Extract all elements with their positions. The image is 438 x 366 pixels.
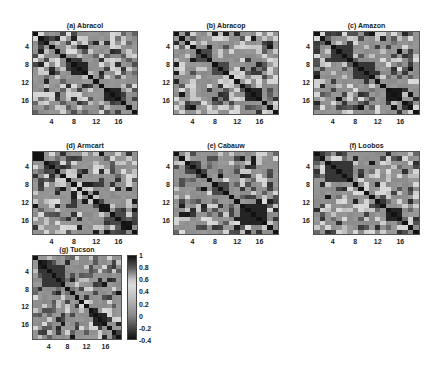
panel-title: (f) Loobos: [349, 142, 383, 149]
matrix-cell: [273, 230, 278, 234]
x-tick-label: 4: [191, 238, 195, 245]
colorbar-tick-label: 0.6: [139, 276, 149, 283]
colorbar-tick-label: 0.8: [139, 264, 149, 271]
y-tick-label: 12: [15, 198, 29, 205]
y-tick-label: 12: [296, 78, 310, 85]
x-tick-label: 16: [256, 118, 264, 125]
x-tick-label: 8: [72, 118, 76, 125]
panel-title: (a) Abracol: [67, 22, 103, 29]
correlation-matrix: [173, 151, 279, 235]
x-tick-label: 4: [47, 343, 51, 350]
matrix-cell: [273, 110, 278, 114]
matrix-cell: [413, 110, 419, 114]
x-tick-label: 16: [396, 118, 404, 125]
matrix-cell: [132, 110, 137, 114]
y-tick-label: 16: [156, 216, 170, 223]
x-tick-label: 12: [233, 238, 241, 245]
x-tick-label: 12: [374, 238, 382, 245]
y-tick-label: 12: [156, 78, 170, 85]
colorbar-tick-label: -0.4: [139, 337, 151, 344]
correlation-matrix: [173, 31, 279, 115]
y-tick-label: 8: [15, 285, 29, 292]
y-tick-label: 16: [296, 96, 310, 103]
colorbar-tick-label: 1: [139, 252, 143, 259]
matrix-cell: [413, 230, 419, 234]
matrix-cell: [132, 230, 137, 234]
y-tick-label: 4: [15, 43, 29, 50]
y-tick-label: 8: [15, 61, 29, 68]
y-tick-label: 8: [296, 181, 310, 188]
y-tick-label: 16: [296, 216, 310, 223]
panel-title: (g) Tucson: [59, 246, 94, 253]
y-tick-label: 8: [156, 181, 170, 188]
x-tick-label: 8: [66, 343, 70, 350]
x-tick-label: 12: [92, 118, 100, 125]
y-tick-label: 12: [15, 303, 29, 310]
y-tick-label: 8: [15, 181, 29, 188]
correlation-matrix: [32, 151, 138, 235]
x-tick-label: 12: [92, 238, 100, 245]
matrix-cell: [116, 335, 121, 339]
y-tick-label: 4: [15, 267, 29, 274]
correlation-matrix: [313, 151, 420, 235]
x-tick-label: 8: [353, 238, 357, 245]
y-tick-label: 12: [296, 198, 310, 205]
panel-title: (e) Cabauw: [207, 142, 244, 149]
x-tick-label: 16: [396, 238, 404, 245]
x-tick-label: 8: [213, 238, 217, 245]
x-tick-label: 4: [331, 118, 335, 125]
x-tick-label: 8: [353, 118, 357, 125]
y-tick-label: 4: [296, 163, 310, 170]
panel-title: (c) Amazon: [348, 22, 385, 29]
x-tick-label: 16: [115, 238, 123, 245]
colorbar-tick-label: 0.4: [139, 288, 149, 295]
x-tick-label: 12: [233, 118, 241, 125]
x-tick-label: 16: [115, 118, 123, 125]
colorbar: [127, 255, 137, 340]
x-tick-label: 16: [256, 238, 264, 245]
x-tick-label: 12: [83, 343, 91, 350]
colorbar-tick-label: 0.2: [139, 300, 149, 307]
y-tick-label: 4: [15, 163, 29, 170]
y-tick-label: 16: [15, 216, 29, 223]
x-tick-label: 12: [374, 118, 382, 125]
x-tick-label: 4: [50, 118, 54, 125]
x-tick-label: 4: [50, 238, 54, 245]
panel-title: (b) Abracop: [206, 22, 245, 29]
x-tick-label: 4: [331, 238, 335, 245]
colorbar-tick-label: -0.2: [139, 324, 151, 331]
x-tick-label: 16: [102, 343, 110, 350]
y-tick-label: 16: [156, 96, 170, 103]
y-tick-label: 4: [156, 163, 170, 170]
y-tick-label: 4: [156, 43, 170, 50]
y-tick-label: 12: [156, 198, 170, 205]
colorbar-tick-label: 0: [139, 312, 143, 319]
y-tick-label: 16: [15, 96, 29, 103]
correlation-matrix: [32, 31, 138, 115]
y-tick-label: 12: [15, 78, 29, 85]
x-tick-label: 8: [72, 238, 76, 245]
y-tick-label: 16: [15, 321, 29, 328]
x-tick-label: 8: [213, 118, 217, 125]
y-tick-label: 8: [296, 61, 310, 68]
correlation-matrix: [313, 31, 420, 115]
y-tick-label: 8: [156, 61, 170, 68]
panel-title: (d) Armcart: [66, 142, 103, 149]
correlation-matrix: [32, 255, 122, 340]
y-tick-label: 4: [296, 43, 310, 50]
x-tick-label: 4: [191, 118, 195, 125]
